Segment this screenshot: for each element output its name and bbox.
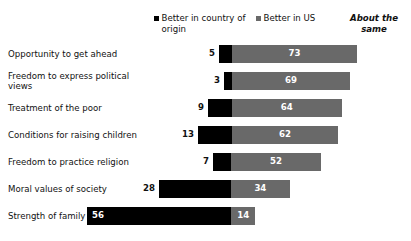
bar-value-origin: 9 xyxy=(198,103,204,112)
bar-segment-origin: 5 xyxy=(219,45,232,63)
bar-segment-origin: 13 xyxy=(198,126,232,144)
row-label: Freedom to express political views xyxy=(8,70,148,91)
chart-rows: Opportunity to get ahead 5 73 18 Freedom… xyxy=(0,40,411,229)
bar-area: 13 62 20 xyxy=(150,121,411,148)
bar-segment-origin: 28 xyxy=(159,180,231,198)
bar-value-us: 64 xyxy=(281,103,293,112)
chart-container: Better in country of origin Better in US… xyxy=(0,0,411,241)
bar-segment-us: 62 xyxy=(232,126,339,144)
bar-area: 9 64 21 xyxy=(150,94,411,121)
bar-value-us: 69 xyxy=(285,76,297,85)
bar-segment-us: 69 xyxy=(232,72,351,90)
bar-segment-origin: 56 xyxy=(87,207,231,225)
bar-value-origin: 13 xyxy=(182,130,194,139)
bar-area: 56 14 26 xyxy=(150,202,411,229)
black-square-icon xyxy=(154,16,159,21)
bar-segment-us: 64 xyxy=(232,99,342,117)
bar-value-origin: 3 xyxy=(214,76,220,85)
row-label: Freedom to practice religion xyxy=(8,156,148,166)
table-row: Moral values of society 28 34 32 xyxy=(0,175,411,202)
bar-value-origin: 7 xyxy=(203,157,209,166)
table-row: Strength of family ties 56 14 26 xyxy=(0,202,411,229)
chart-legend: Better in country of origin Better in US… xyxy=(152,13,411,40)
bar-segment-us: 14 xyxy=(231,207,255,225)
bar-value-us: 52 xyxy=(270,157,282,166)
row-label: Moral values of society xyxy=(8,183,148,193)
row-label: Opportunity to get ahead xyxy=(8,48,148,58)
legend-item-better-in-country-of-origin: Better in country of origin xyxy=(154,13,250,34)
legend-label-us: Better in US xyxy=(264,13,316,24)
table-row: Treatment of the poor 9 64 21 xyxy=(0,94,411,121)
table-row: Conditions for raising children 13 62 20 xyxy=(0,121,411,148)
legend-label-origin: Better in country of origin xyxy=(162,13,251,34)
bar-segment-us: 73 xyxy=(232,45,358,63)
row-label: Treatment of the poor xyxy=(8,102,148,112)
bar-value-us: 34 xyxy=(254,184,266,193)
legend-item-better-in-us: Better in US xyxy=(256,13,330,24)
bar-area: 3 69 23 xyxy=(150,67,411,94)
row-label: Conditions for raising children xyxy=(8,129,148,139)
bar-value-origin: 5 xyxy=(209,49,215,58)
table-row: Freedom to express political views 3 69 … xyxy=(0,67,411,94)
bar-segment-origin: 7 xyxy=(213,153,231,171)
bar-segment-origin: 3 xyxy=(224,72,232,90)
table-row: Freedom to practice religion 7 52 38 xyxy=(0,148,411,175)
bar-value-us: 73 xyxy=(288,49,300,58)
bar-area: 5 73 18 xyxy=(150,40,411,67)
bar-segment-origin: 9 xyxy=(208,99,232,117)
bar-value-us: 62 xyxy=(279,130,291,139)
bar-segment-us: 52 xyxy=(231,153,320,171)
bar-segment-us: 34 xyxy=(231,180,289,198)
bar-area: 7 52 38 xyxy=(150,148,411,175)
bar-value-origin: 56 xyxy=(92,211,104,220)
about-the-same-column-header: About the same xyxy=(338,13,410,34)
gray-square-icon xyxy=(256,16,261,21)
bar-area: 28 34 32 xyxy=(150,175,411,202)
table-row: Opportunity to get ahead 5 73 18 xyxy=(0,40,411,67)
bar-value-us: 14 xyxy=(237,211,249,220)
bar-value-origin: 28 xyxy=(143,184,155,193)
